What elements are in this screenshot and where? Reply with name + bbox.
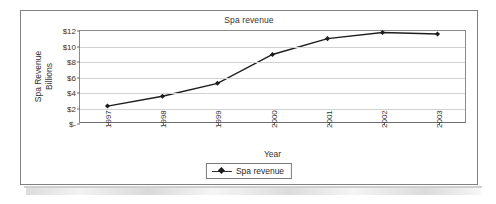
data-point-2001 [325, 36, 330, 41]
chart-legend: Spa revenue [206, 163, 292, 179]
gridline [80, 78, 465, 79]
x-tick-label-1997: 1997 [104, 110, 113, 128]
y-tick-label-10: $10 [63, 42, 76, 51]
chart-figure-frame: Spa revenue Spa Revenue Billions $12$10$… [20, 10, 478, 185]
y-tick-label-4: $4 [67, 89, 76, 98]
data-point-2000 [270, 52, 275, 57]
data-point-1999 [215, 81, 220, 86]
y-tick-mark [77, 124, 80, 125]
y-tick-mark [77, 93, 80, 94]
data-point-1998 [160, 94, 165, 99]
x-tick-label-1999: 1999 [214, 110, 223, 128]
y-tick-mark [77, 31, 80, 32]
y-axis-title-line-2: Billions [44, 63, 55, 90]
y-tick-label-12: $12 [63, 27, 76, 36]
screenshot-canvas: Spa revenue Spa Revenue Billions $12$10$… [0, 0, 496, 204]
plot-area: $12$10$8$6$4$2$-199719981999200020012002… [79, 30, 466, 123]
y-tick-label-: $- [69, 120, 76, 129]
data-point-2003 [435, 31, 440, 36]
x-axis-title: Year [79, 149, 466, 159]
y-tick-label-2: $2 [67, 104, 76, 113]
y-tick-label-8: $8 [67, 58, 76, 67]
x-tick-label-2001: 2001 [325, 110, 334, 128]
x-tick-label-2000: 2000 [270, 110, 279, 128]
legend-label-spa-revenue: Spa revenue [236, 166, 284, 176]
y-axis-title-line-1: Spa Revenue [33, 51, 44, 103]
y-tick-mark [77, 62, 80, 63]
chart-title: Spa revenue [21, 15, 477, 25]
gridline [80, 93, 465, 94]
legend-marker-icon [212, 167, 232, 175]
y-tick-mark [77, 77, 80, 78]
data-line [107, 33, 437, 107]
gridline [80, 47, 465, 48]
x-tick-label-1998: 1998 [159, 110, 168, 128]
gridline [80, 62, 465, 63]
data-point-2002 [380, 30, 385, 35]
x-tick-label-2003: 2003 [435, 110, 444, 128]
y-tick-mark [77, 108, 80, 109]
y-tick-mark [77, 46, 80, 47]
y-tick-label-6: $6 [67, 73, 76, 82]
scan-paper-shadow [26, 188, 481, 195]
y-axis-title: Spa Revenue Billions [29, 30, 59, 123]
x-tick-label-2002: 2002 [380, 110, 389, 128]
